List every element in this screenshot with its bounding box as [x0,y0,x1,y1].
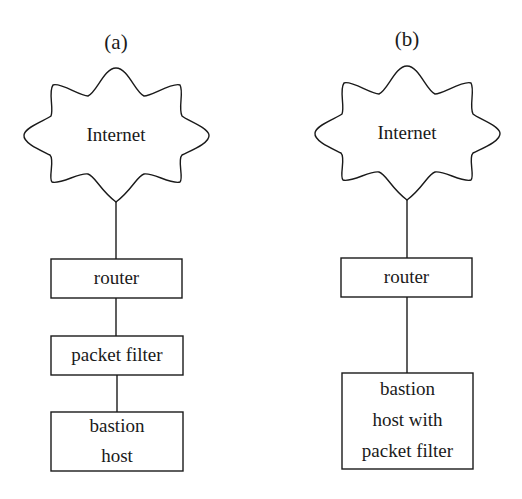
bastion-label-b-line1: bastion [342,374,473,404]
router-label-b: router [341,261,472,292]
panel-b-label: (b) [377,27,437,51]
panel-a-label: (a) [86,30,146,54]
bastion-label-b-line3: packet filter [342,436,473,466]
internet-label-b: Internet [357,117,457,148]
bastion-label-b-line2: host with [342,405,473,435]
bastion-label-a-line2: host [51,441,183,471]
bastion-label-a-line1: bastion [51,411,183,441]
internet-label-a: Internet [66,119,166,150]
router-label-a: router [51,262,182,293]
packet-filter-label-a: packet filter [51,339,183,370]
